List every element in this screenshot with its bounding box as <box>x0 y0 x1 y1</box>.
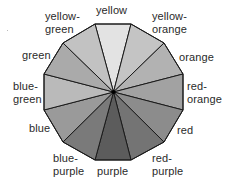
label-line: blue- <box>53 152 84 165</box>
label-line: green <box>45 23 80 36</box>
label-line: purple <box>53 165 84 178</box>
label-line: red- <box>152 152 183 165</box>
label-orange: orange <box>179 51 214 64</box>
label-line: purple <box>97 165 128 178</box>
label-line: orange <box>179 51 214 64</box>
label-red-purple: red- purple <box>152 152 183 178</box>
label-line: blue <box>29 122 50 135</box>
label-line: red <box>177 124 193 137</box>
label-yellow-green: yellow- green <box>45 10 80 36</box>
label-line: green <box>22 49 51 62</box>
label-line: green <box>13 93 42 106</box>
label-purple: purple <box>97 165 128 178</box>
label-blue-green: blue- green <box>13 80 42 106</box>
label-line: blue- <box>13 80 42 93</box>
label-line: yellow <box>96 4 127 17</box>
label-blue: blue <box>29 122 50 135</box>
label-line: purple <box>152 165 183 178</box>
label-blue-purple: blue- purple <box>53 152 84 178</box>
center-dot <box>112 90 116 94</box>
label-green: green <box>22 49 51 62</box>
label-red-orange: red- orange <box>187 80 222 106</box>
scan-artifact <box>7 30 8 31</box>
label-line: red- <box>187 80 222 93</box>
label-yellow: yellow <box>96 4 127 17</box>
label-yellow-orange: yellow- orange <box>152 10 187 36</box>
label-red: red <box>177 124 193 137</box>
label-line: yellow- <box>152 10 187 23</box>
label-line: orange <box>152 23 187 36</box>
label-line: yellow- <box>45 10 80 23</box>
label-line: orange <box>187 93 222 106</box>
